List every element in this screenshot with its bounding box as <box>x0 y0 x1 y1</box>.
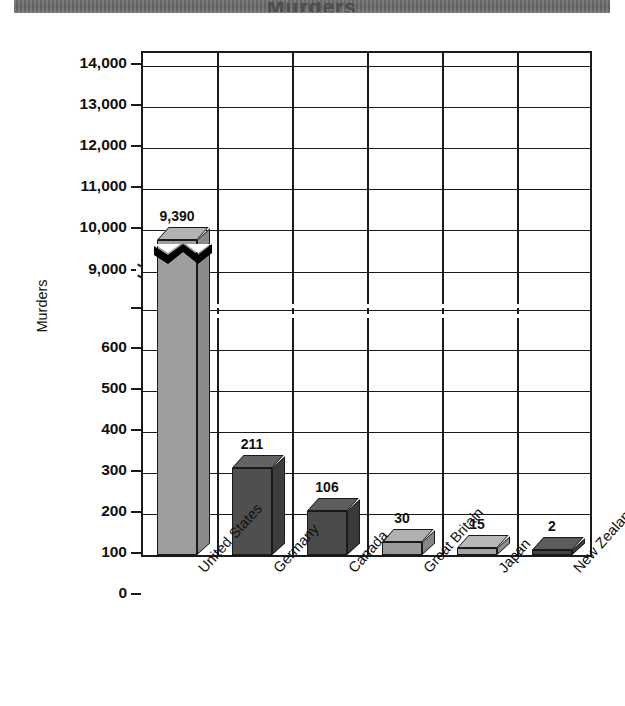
y-tick-label: 10,000 <box>0 218 127 236</box>
bar-new-zealand <box>532 550 572 555</box>
bar-side-face <box>272 456 285 555</box>
x-axis-label-germany: Germany <box>270 565 282 576</box>
gridline-vertical-break <box>367 298 369 324</box>
y-tick-mark <box>131 388 141 390</box>
bar-axis-break-icon <box>154 244 212 270</box>
bar-front-face <box>457 548 497 555</box>
y-tick-mark <box>131 145 141 147</box>
gridline-vertical <box>442 324 444 555</box>
bar-chart: Murders 14,00013,00012,00011,00010,0009,… <box>0 13 625 706</box>
y-tick-label: 12,000 <box>0 136 127 154</box>
x-axis-label-united-states: United States <box>195 565 207 576</box>
gridline-vertical <box>367 324 369 555</box>
gridline-vertical <box>217 324 219 555</box>
y-tick-label: 200 <box>0 502 127 520</box>
y-tick-mark <box>131 307 141 309</box>
plot-area: 9,39021110630152 <box>141 51 592 557</box>
y-tick-mark <box>131 104 141 106</box>
y-tick-mark <box>131 347 141 349</box>
bar-great-britain <box>382 542 422 555</box>
y-tick-label: 600 <box>0 338 127 356</box>
bar-japan <box>457 548 497 555</box>
y-tick-label: 13,000 <box>0 95 127 113</box>
gridline-vertical <box>217 53 219 298</box>
bar-front-face <box>157 240 197 555</box>
gridline-vertical <box>292 53 294 298</box>
y-tick-mark <box>131 470 141 472</box>
y-tick-label: 500 <box>0 379 127 397</box>
gridline-vertical <box>292 324 294 555</box>
y-tick-mark <box>131 552 141 554</box>
y-tick-label: 9,000 <box>0 260 127 278</box>
y-tick-label: 100 <box>0 543 127 561</box>
y-tick-mark <box>131 593 141 595</box>
x-axis-label-great-britain: Great Britain <box>420 565 432 576</box>
gridline-vertical <box>367 53 369 298</box>
x-axis-label-canada: Canada <box>345 565 357 576</box>
y-tick-label: 300 <box>0 461 127 479</box>
gridline-vertical <box>517 324 519 555</box>
y-tick-mark <box>131 429 141 431</box>
bar-front-face <box>382 542 422 555</box>
bar-value-label: 9,390 <box>145 208 209 224</box>
y-tick-label: 14,000 <box>0 54 127 72</box>
y-tick-mark <box>131 511 141 513</box>
bar-value-label: 30 <box>370 510 434 526</box>
chart-title: Murders <box>14 2 610 12</box>
bar-value-label: 211 <box>220 436 284 452</box>
y-tick-mark <box>131 227 141 229</box>
y-tick-mark <box>131 63 141 65</box>
x-axis-label-new-zealand: New Zealand <box>570 565 582 576</box>
bar-value-label: 106 <box>295 479 359 495</box>
gridline-vertical-break <box>517 298 519 324</box>
gridline-vertical-break <box>292 298 294 324</box>
bar-side-face <box>197 228 210 555</box>
gridline-vertical-break <box>217 298 219 324</box>
bar-value-label: 2 <box>520 518 584 534</box>
title-banner: Murders <box>14 0 610 13</box>
y-tick-label: 0 <box>0 584 127 602</box>
y-tick-label: 11,000 <box>0 177 127 195</box>
gridline-vertical <box>517 53 519 298</box>
x-axis-label-japan: Japan <box>495 565 507 576</box>
bar-front-face <box>532 550 572 555</box>
bar-united-states <box>157 240 197 555</box>
y-tick-label: 400 <box>0 420 127 438</box>
gridline-vertical-break <box>442 298 444 324</box>
gridline-vertical <box>442 53 444 298</box>
y-tick-mark <box>131 186 141 188</box>
